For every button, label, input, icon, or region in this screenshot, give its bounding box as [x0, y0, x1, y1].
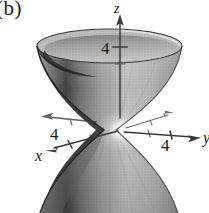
y-axis-arrowhead [188, 135, 201, 142]
x-axis-tick-label: 4 [50, 126, 59, 143]
hyperboloid-figure-svg [0, 0, 209, 213]
y-axis-label: y [203, 130, 209, 146]
z-axis-label: z [114, 2, 119, 16]
x-axis-label: x [35, 148, 42, 164]
y-axis-tick-label: 4 [161, 137, 170, 154]
figure-container: (b) 4 4 4 z x y [0, 0, 209, 213]
panel-label: (b) [0, 0, 22, 19]
y-axis-tick-4 [170, 131, 172, 139]
x-axis-arrowhead [45, 145, 58, 152]
top-rim-inner-bowl-texture [45, 35, 177, 62]
z-axis-tick-label: 4 [101, 40, 110, 57]
